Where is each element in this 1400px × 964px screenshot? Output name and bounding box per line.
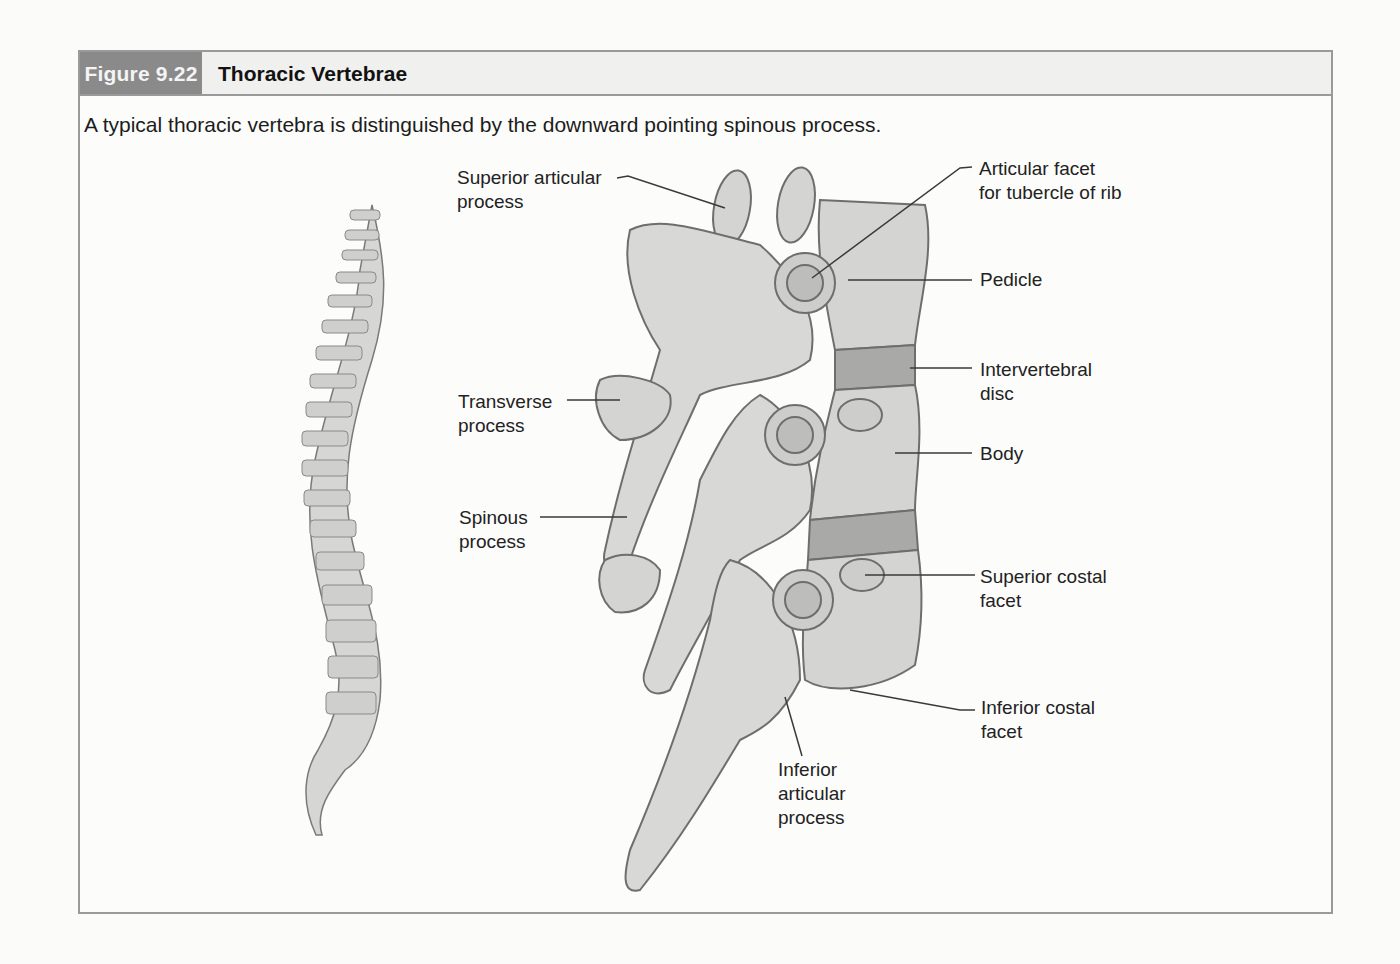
label-pedicle: Pedicle (980, 268, 1042, 292)
vertebral-column-illustration (302, 205, 384, 835)
label-intervertebral-disc: Intervertebral disc (980, 358, 1092, 406)
label-articular-facet-tubercle: Articular facet for tubercle of rib (979, 157, 1122, 205)
label-spinous-process: Spinous process (459, 506, 528, 554)
label-superior-costal-facet: Superior costal facet (980, 565, 1107, 613)
illustration-canvas (0, 0, 1400, 964)
label-inferior-costal-facet: Inferior costal facet (981, 696, 1095, 744)
label-inferior-articular-process: Inferior articular process (778, 758, 846, 830)
thoracic-vertebrae-illustration (596, 164, 928, 890)
label-body: Body (980, 442, 1023, 466)
label-superior-articular-process: Superior articular process (457, 166, 602, 214)
label-transverse-process: Transverse process (458, 390, 552, 438)
